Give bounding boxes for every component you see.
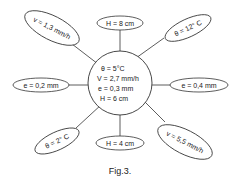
figure-caption: Fig.3. xyxy=(109,166,132,176)
svg-text:e = 0,4 mm: e = 0,4 mm xyxy=(181,82,216,89)
node-bottom-left: θ = 2° C xyxy=(31,123,82,160)
svg-text:H = 4 cm: H = 4 cm xyxy=(106,140,134,147)
svg-text:H = 8 cm: H = 8 cm xyxy=(106,20,134,27)
node-bottom-right: v = 5,5 mm/h xyxy=(153,118,217,167)
node-left: e = 0,2 mm xyxy=(13,78,69,92)
svg-text:e = 0,2 mm: e = 0,2 mm xyxy=(23,82,58,89)
center-circle xyxy=(88,51,152,115)
node-right: e = 0,4 mm xyxy=(170,78,228,92)
center-line-temp: θ = 5°C xyxy=(101,65,125,72)
node-top-right: θ = 12° C xyxy=(162,9,215,46)
node-bottom: H = 4 cm xyxy=(96,136,144,150)
node-top-left: v = 1,3 mm/h xyxy=(20,4,84,53)
node-top: H = 8 cm xyxy=(97,16,143,30)
center-line-thickness: e = 0,3 mm xyxy=(98,85,133,92)
center-line-velocity: V = 2,7 mm/h xyxy=(97,75,139,82)
center-line-height: H = 6 cm xyxy=(100,95,128,102)
diagram: θ = 5°C V = 2,7 mm/h e = 0,3 mm H = 6 cm… xyxy=(0,0,240,183)
